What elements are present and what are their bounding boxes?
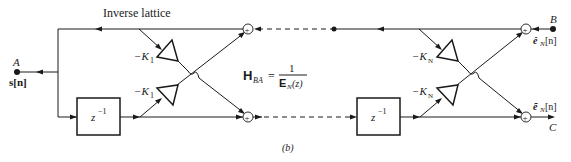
output-section: B ê N [n] ẽ N [n] C (531, 13, 557, 133)
arrow-right-icon (133, 115, 140, 120)
inverse-lattice-diagram: Inverse lattice A s[n] z −1 −K 1 (0, 0, 571, 162)
stage-1: z −1 −K 1 −K 1 + + (77, 24, 253, 135)
delay-1-exp: −1 (98, 107, 107, 116)
sum-symbol: + (523, 113, 528, 123)
gain-lower-n-prefix: −K (412, 85, 427, 97)
gain-upper-n-sub: N (428, 57, 433, 65)
node-a-label: A (12, 56, 20, 68)
e-arg: (z) (292, 78, 303, 90)
figure-caption: (b) (282, 142, 294, 154)
gain-lower-1-prefix: −K (134, 85, 149, 97)
input-section-a: A s[n] (9, 27, 248, 120)
arrow-left-icon (254, 27, 261, 32)
node-b-dot (550, 26, 556, 32)
arrow-right-icon (350, 115, 357, 120)
gain-upper-1-prefix: −K (134, 50, 149, 62)
node-b-label: B (550, 13, 557, 25)
delay-1-base: z (90, 111, 96, 123)
arrow-right-icon (548, 115, 555, 120)
diagram-title: Inverse lattice (103, 6, 171, 20)
arrow-left-icon (532, 27, 539, 32)
node-c-signal-symbol: ẽ (533, 101, 538, 112)
delay-block-1 (77, 98, 120, 135)
delay-block-n (357, 98, 400, 135)
sum-symbol: + (245, 113, 250, 123)
gain-upper-n-prefix: −K (412, 50, 427, 62)
arrow-left-icon (377, 27, 384, 32)
gain-lower-1-sub: 1 (150, 91, 154, 100)
gain-triangle-upper-n (437, 40, 458, 61)
node-a-signal: s[n] (9, 76, 27, 88)
e-symbol: E (279, 77, 286, 89)
node-b-signal-arg: [n] (545, 35, 557, 46)
gain-triangle-upper-1 (157, 40, 178, 61)
sum-symbol: + (245, 25, 250, 35)
arrow-right-icon (413, 115, 420, 120)
node-c-signal-arg: [n] (545, 101, 557, 112)
arrow-right-icon (514, 115, 521, 120)
arrow-left-icon (95, 27, 102, 32)
transfer-function: H BA = 1 E N (z) (243, 62, 307, 91)
gain-triangle-lower-1 (157, 85, 178, 105)
gain-upper-1-sub: 1 (150, 56, 154, 65)
gain-lower-n-sub: N (428, 92, 433, 100)
arrow-left-icon (36, 70, 43, 75)
arrow-right-icon (236, 115, 243, 120)
numerator: 1 (289, 62, 295, 74)
h-symbol: H (243, 68, 252, 83)
equals-sign: = (268, 69, 275, 83)
delay-n-base: z (370, 111, 376, 123)
node-a-dot (14, 69, 20, 75)
arrow-right-icon (255, 115, 262, 120)
node-c-label: C (549, 121, 557, 133)
gain-triangle-lower-n (437, 85, 458, 105)
node-b-signal-symbol: ê (533, 35, 538, 46)
h-subscript: BA (253, 76, 263, 85)
sum-symbol: + (523, 25, 528, 35)
arrow-right-icon (70, 115, 77, 120)
delay-n-exp: −1 (378, 107, 387, 116)
stage-n: z −1 −K N −K N + + (357, 24, 531, 135)
